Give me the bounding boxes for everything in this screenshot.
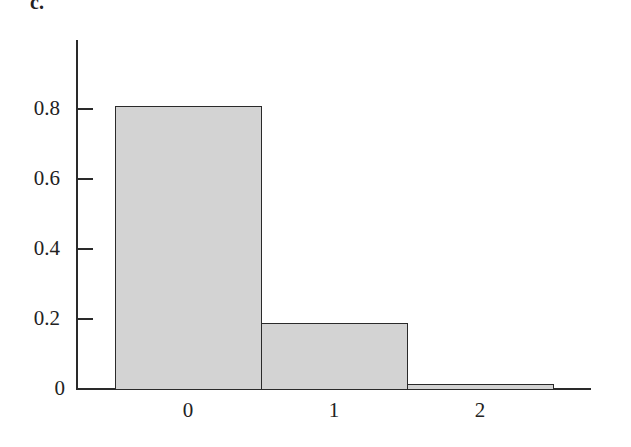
bar-2 bbox=[407, 384, 554, 390]
y-tick bbox=[78, 318, 93, 320]
x-tick-label: 1 bbox=[314, 398, 354, 423]
y-tick-label: 0.8 bbox=[0, 98, 60, 119]
x-tick-label: 0 bbox=[168, 398, 208, 423]
y-tick bbox=[78, 178, 93, 180]
bar-1 bbox=[261, 323, 408, 391]
y-tick bbox=[78, 108, 93, 110]
y-tick-label: 0 bbox=[5, 378, 65, 399]
y-axis bbox=[76, 40, 78, 390]
panel-label: c. bbox=[30, 0, 44, 14]
y-tick-label: 0.4 bbox=[0, 238, 60, 259]
bar-0 bbox=[115, 106, 262, 391]
y-tick bbox=[78, 248, 93, 250]
x-tick-label: 2 bbox=[460, 398, 500, 423]
y-tick-label: 0.6 bbox=[0, 168, 60, 189]
y-tick-label: 0.2 bbox=[0, 308, 60, 329]
